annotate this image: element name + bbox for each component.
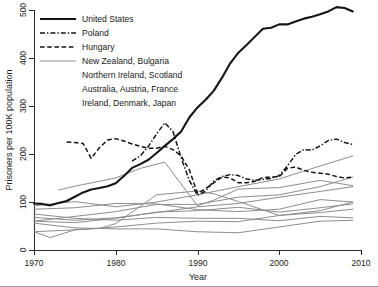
y-axis-title: Prisoners per 100K population — [4, 69, 14, 190]
x-tick-label-1970: 1970 — [25, 258, 44, 268]
x-tick-label-2000: 2000 — [270, 258, 289, 268]
x-tick-label-1980: 1980 — [107, 258, 126, 268]
x-axis-ticks — [34, 250, 361, 255]
x-axis-title: Year — [189, 272, 207, 282]
legend-label-other-countries-1: New Zealand, Bulgaria — [82, 56, 169, 66]
x-tick-label-2010: 2010 — [352, 258, 371, 268]
y-tick-label-100: 100 — [18, 195, 28, 209]
legend-label-other-countries-3: Australia, Austria, France — [82, 84, 178, 94]
legend-label-other-countries-2: Northern Ireland, Scotland — [82, 70, 183, 80]
legend-label-poland: Poland — [82, 28, 109, 38]
x-tick-label-1990: 1990 — [189, 258, 208, 268]
chart-figure: 0 100 200 300 400 500 Prisoners per 100K… — [0, 0, 378, 287]
legend-label-other-countries-4: Ireland, Denmark, Japan — [82, 98, 176, 108]
y-tick-label-500: 500 — [18, 3, 28, 17]
y-tick-label-300: 300 — [18, 99, 28, 113]
legend-label-united-states: United States — [82, 14, 134, 24]
y-tick-label-0: 0 — [18, 247, 28, 252]
y-tick-label-400: 400 — [18, 51, 28, 65]
y-axis-ticks — [29, 10, 34, 250]
y-tick-label-200: 200 — [18, 147, 28, 161]
prison-population-line-chart: 0 100 200 300 400 500 Prisoners per 100K… — [0, 0, 378, 287]
legend-label-hungary: Hungary — [82, 42, 115, 52]
